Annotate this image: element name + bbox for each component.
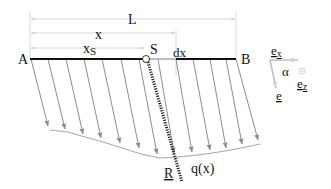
- load-arrows: [31, 59, 258, 154]
- label-e: e: [276, 88, 282, 103]
- label-S: S: [150, 42, 158, 57]
- label-alpha: α: [282, 64, 289, 79]
- label-R: R: [164, 166, 174, 181]
- label-L: L: [128, 12, 137, 27]
- label-dx: dx: [173, 45, 187, 60]
- resultant-R-line: [148, 62, 182, 182]
- label-ez: ez: [297, 76, 308, 92]
- label-ex: ex: [271, 43, 282, 59]
- label-x: x: [95, 27, 102, 42]
- load-diagram: L x xS A S dx B ex α ez e R q(x): [0, 0, 331, 189]
- label-q: q(x): [191, 161, 215, 177]
- label-B: B: [241, 52, 250, 67]
- point-S-marker: [143, 56, 150, 63]
- label-xS: xS: [83, 41, 96, 57]
- label-A: A: [18, 52, 29, 67]
